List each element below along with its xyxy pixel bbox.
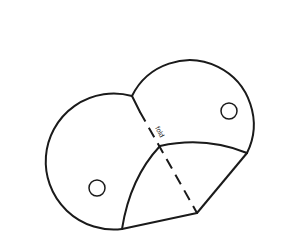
flap-top-arc [160,142,247,153]
fold-diagram: fold [0,0,292,252]
fold-line [140,112,197,213]
cusp-segment [132,96,140,112]
flap-left-arc [122,146,160,229]
right-hole [221,103,237,119]
flap-bottom-edge [122,213,197,229]
fold-label: fold [154,125,166,138]
left-circle-arc [46,94,132,230]
left-hole [89,180,105,196]
flap-right-edge [197,153,247,213]
